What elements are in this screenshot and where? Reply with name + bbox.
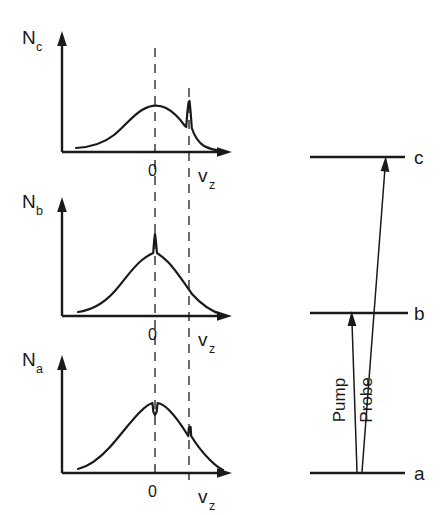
panel-nb-ylabel-subscript: b xyxy=(36,204,43,218)
pump-arrow-label: Pump xyxy=(330,378,349,422)
panel-na-ylabel-subscript: a xyxy=(36,362,43,376)
panel-nc-xlabel: v xyxy=(198,165,208,186)
level-b-label: b xyxy=(414,303,425,324)
panel-nb-xlabel: v xyxy=(198,329,208,350)
panel-nb-xlabel-subscript: z xyxy=(209,342,215,356)
panel-na-xlabel: v xyxy=(198,486,208,507)
panel-nc-ylabel: N xyxy=(22,27,36,48)
panel-nc-origin-tick-label: 0 xyxy=(148,162,157,179)
saturation-spectroscopy-figure: N c 0 v z N b 0 v z N a 0 v z xyxy=(0,0,448,515)
panel-na-ylabel: N xyxy=(22,349,36,370)
panel-na-xlabel-subscript: z xyxy=(209,499,215,513)
level-c-label: c xyxy=(414,147,424,168)
panel-na-origin-tick-label: 0 xyxy=(148,483,157,500)
panel-nc-xlabel-subscript: z xyxy=(209,178,215,192)
panel-nb-ylabel: N xyxy=(22,191,36,212)
probe-arrow-label: Probe xyxy=(357,377,376,422)
level-a-label: a xyxy=(414,463,425,484)
panel-nc-ylabel-subscript: c xyxy=(36,40,42,54)
panel-nb-origin-tick-label: 0 xyxy=(148,326,157,343)
figure-background xyxy=(0,0,448,515)
